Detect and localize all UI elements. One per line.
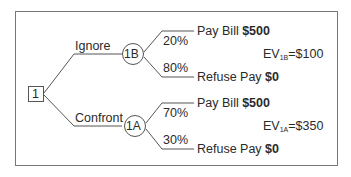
prob-1a-pay: 70% [163, 106, 188, 120]
root-node-label: 1 [32, 87, 39, 101]
branch-confront-label: Confront [75, 111, 123, 125]
decision-tree-lines [0, 0, 351, 177]
node-1b-label: 1B [124, 47, 139, 61]
prob-1b-pay: 20% [163, 34, 188, 48]
outcome-1b-pay: Pay Bill $500 [197, 24, 270, 38]
outcome-1a-pay: Pay Bill $500 [197, 96, 270, 110]
prob-1b-refuse: 80% [163, 61, 188, 75]
branch-ignore-label: Ignore [75, 39, 110, 53]
outcome-1b-refuse: Refuse Pay $0 [197, 70, 279, 84]
ev-1a: EV1A=$350 [263, 119, 323, 137]
ev-1b: EV1B=$100 [263, 47, 323, 65]
outcome-1a-refuse: Refuse Pay $0 [197, 142, 279, 156]
node-1a-label: 1A [126, 119, 141, 133]
prob-1a-refuse: 30% [163, 133, 188, 147]
